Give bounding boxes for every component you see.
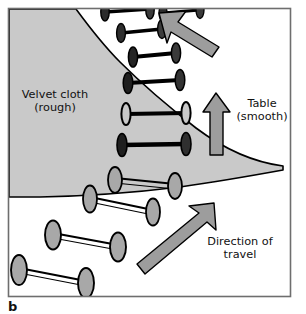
table-label-line1: Table <box>246 97 276 110</box>
panel-label: b <box>8 300 17 313</box>
direction-label-line1: Direction of <box>207 235 274 248</box>
table-label-line2: (smooth) <box>236 110 287 123</box>
diagram-canvas: Velvet cloth (rough) Table (smooth) Dire… <box>0 0 306 314</box>
velvet-cloth-label-line2: (rough) <box>34 101 76 114</box>
direction-label-line2: travel <box>224 248 257 261</box>
velvet-cloth-label-line1: Velvet cloth <box>22 88 88 101</box>
physics-friction-diagram: Velvet cloth (rough) Table (smooth) Dire… <box>0 0 306 314</box>
